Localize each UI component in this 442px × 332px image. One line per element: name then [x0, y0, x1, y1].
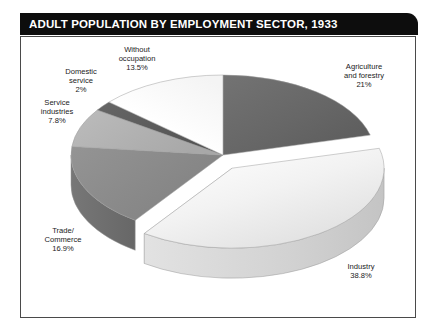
chart-title-bar: ADULT POPULATION BY EMPLOYMENT SECTOR, 1… [20, 13, 418, 35]
chart-figure: ADULT POPULATION BY EMPLOYMENT SECTOR, 1… [0, 0, 442, 332]
slice-label-trade-commerce: Trade/ Commerce 16.9% [27, 226, 99, 254]
page-title: ADULT POPULATION BY EMPLOYMENT SECTOR, 1… [20, 18, 337, 30]
slice-label-domestic-service: Domestic service 2% [43, 67, 119, 95]
slice-label-industry: Industry 38.8% [329, 262, 393, 280]
chart-panel: Without occupation 13.5% Domestic servic… [20, 36, 416, 318]
slice-label-service-industries: Service industries 7.8% [22, 98, 92, 126]
slice-label-agriculture-forestry: Agriculture and forestry 21% [324, 62, 404, 90]
